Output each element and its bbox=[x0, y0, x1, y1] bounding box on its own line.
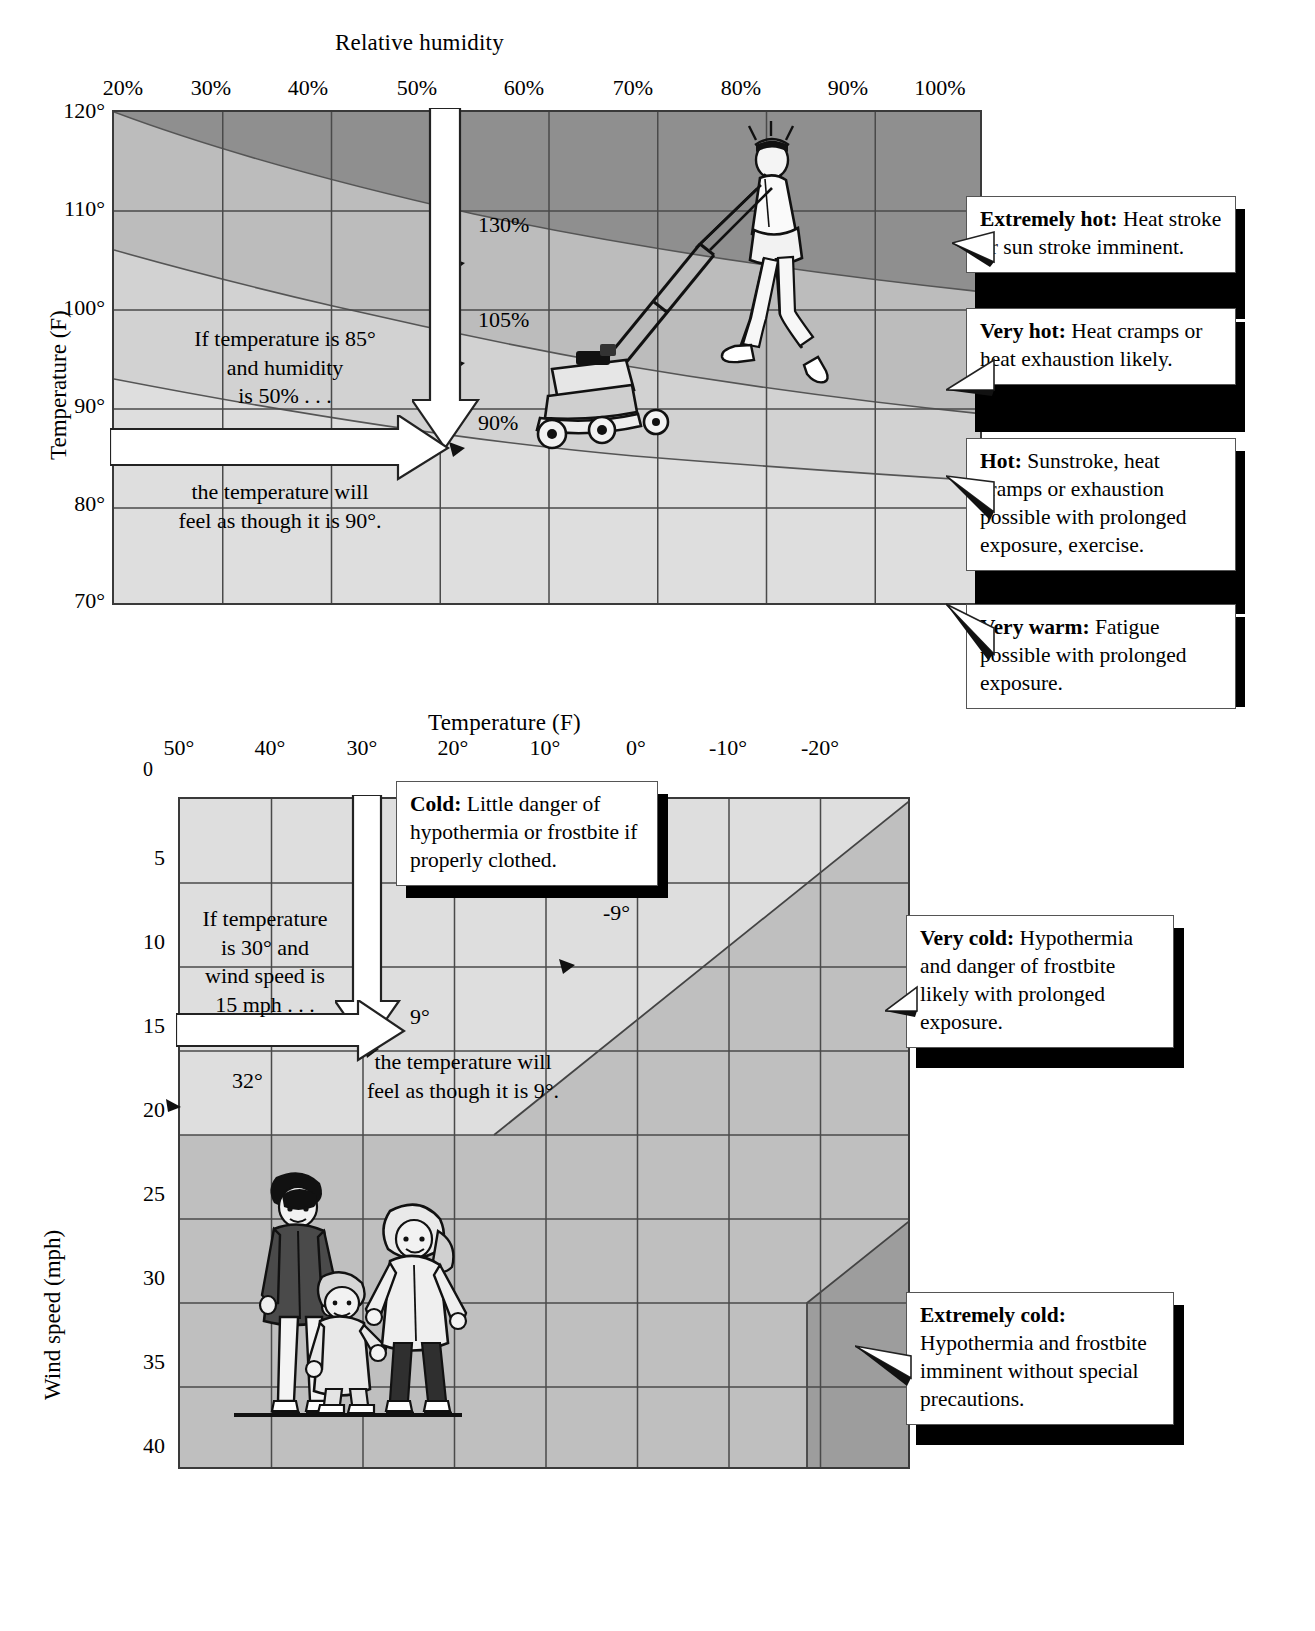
heat-note-lower-line2: feel as though it is 90°. bbox=[135, 507, 425, 536]
wind-chart-x-axis-title: Temperature (F) bbox=[428, 710, 581, 736]
wind-note-upper: If temperature is 30° and wind speed is … bbox=[180, 905, 350, 1019]
callout-tail-hot bbox=[946, 470, 1008, 528]
callout-extremely-cold[interactable]: Extremely cold: Hypothermia and frostbit… bbox=[906, 1292, 1174, 1425]
heat-chart-x-axis-title: Relative humidity bbox=[335, 30, 504, 56]
heat-y-tick-70: 70° bbox=[10, 588, 105, 614]
heat-note-lower-line1: the temperature will bbox=[135, 478, 425, 507]
wind-origin-label: 0 bbox=[143, 758, 153, 781]
heat-x-tick-90: 90% bbox=[803, 75, 893, 101]
wind-y-tick-30: 30 bbox=[80, 1265, 165, 1291]
wind-y-tick-20: 20 bbox=[80, 1097, 165, 1123]
heat-x-tick-40: 40% bbox=[263, 75, 353, 101]
wind-chill-plot-svg bbox=[180, 799, 910, 1469]
callout-tail-very-hot bbox=[946, 350, 1006, 402]
wind-y-tick-35: 35 bbox=[80, 1349, 165, 1375]
wind-x-tick-40: 40° bbox=[235, 735, 305, 761]
callout-lead-cold: Cold: bbox=[410, 792, 461, 816]
heat-y-tick-110: 110° bbox=[10, 196, 105, 222]
wind-x-tick-10: 10° bbox=[510, 735, 580, 761]
heat-x-tick-80: 80% bbox=[696, 75, 786, 101]
wind-note-upper-line2: is 30° and bbox=[180, 934, 350, 963]
wind-y-tick-40: 40 bbox=[80, 1433, 165, 1459]
wind-value-label-9: 9° bbox=[410, 1004, 430, 1030]
wind-note-upper-line4: 15 mph . . . bbox=[180, 991, 350, 1020]
wind-note-lower-line1: the temperature will bbox=[318, 1048, 608, 1077]
wind-chart-y-axis-title: Wind speed (mph) bbox=[40, 1230, 66, 1400]
callout-tail-very-warm bbox=[946, 600, 1008, 662]
heat-note-lower: the temperature will feel as though it i… bbox=[135, 478, 425, 535]
wind-x-tick-0: 0° bbox=[601, 735, 671, 761]
wind-y-tick-5: 5 bbox=[80, 845, 165, 871]
callout-lead-very-hot: Very hot: bbox=[980, 319, 1066, 343]
heat-note-upper-line3: is 50% . . . bbox=[150, 382, 420, 411]
heat-chart-y-axis-title: Temperature (F) bbox=[46, 310, 72, 460]
callout-tail-extremely-cold bbox=[855, 1330, 927, 1390]
heat-y-tick-80: 80° bbox=[10, 491, 105, 517]
wind-note-upper-line1: If temperature bbox=[180, 905, 350, 934]
wind-x-tick-50: 50° bbox=[144, 735, 214, 761]
heat-x-tick-30: 30% bbox=[166, 75, 256, 101]
callout-lead-extremely-hot: Extremely hot: bbox=[980, 207, 1118, 231]
heat-x-tick-50: 50% bbox=[372, 75, 462, 101]
heat-curve-label-130: 130% bbox=[478, 212, 529, 238]
wind-note-lower: the temperature will feel as though it i… bbox=[318, 1048, 608, 1105]
wind-note-lower-line2: feel as though it is 9°. bbox=[318, 1077, 608, 1106]
heat-y-tick-120: 120° bbox=[10, 98, 105, 124]
callout-cold[interactable]: Cold: Little danger of hypothermia or fr… bbox=[396, 781, 658, 886]
callout-tail-extremely-hot bbox=[952, 230, 1012, 275]
heat-note-upper-line1: If temperature is 85° bbox=[150, 325, 420, 354]
wind-value-label-neg9: -9° bbox=[603, 900, 630, 926]
callout-body-extremely-cold: Hypothermia and frostbite imminent witho… bbox=[920, 1331, 1147, 1411]
heat-curve-label-90: 90% bbox=[478, 410, 518, 436]
wind-x-tick-neg20: -20° bbox=[780, 735, 860, 761]
heat-x-tick-60: 60% bbox=[479, 75, 569, 101]
heat-right-arrow bbox=[110, 415, 450, 481]
wind-x-tick-30: 30° bbox=[327, 735, 397, 761]
callout-lead-very-cold: Very cold: bbox=[920, 926, 1014, 950]
heat-y-tick-100: 100° bbox=[10, 295, 105, 321]
callout-very-hot[interactable]: Very hot: Heat cramps or heat exhaustion… bbox=[966, 308, 1236, 385]
wind-y-tick-10: 10 bbox=[80, 929, 165, 955]
heat-curve-label-105: 105% bbox=[478, 307, 529, 333]
heat-y-tick-90: 90° bbox=[10, 393, 105, 419]
wind-axis-marker-20 bbox=[165, 1098, 185, 1116]
heat-note-upper-line2: and humidity bbox=[150, 354, 420, 383]
callout-lead-extremely-cold: Extremely cold: bbox=[920, 1303, 1066, 1327]
callout-tail-very-cold bbox=[885, 975, 933, 1023]
wind-value-label-32: 32° bbox=[232, 1068, 263, 1094]
wind-y-tick-15: 15 bbox=[80, 1013, 165, 1039]
heat-x-tick-100: 100% bbox=[890, 75, 990, 101]
heat-note-upper: If temperature is 85° and humidity is 50… bbox=[150, 325, 420, 411]
callout-very-cold[interactable]: Very cold: Hypothermia and danger of fro… bbox=[906, 915, 1174, 1048]
heat-x-tick-70: 70% bbox=[588, 75, 678, 101]
wind-y-tick-25: 25 bbox=[80, 1181, 165, 1207]
wind-note-upper-line3: wind speed is bbox=[180, 962, 350, 991]
wind-x-tick-20: 20° bbox=[418, 735, 488, 761]
wind-x-tick-neg10: -10° bbox=[688, 735, 768, 761]
heat-down-arrow bbox=[412, 108, 482, 458]
